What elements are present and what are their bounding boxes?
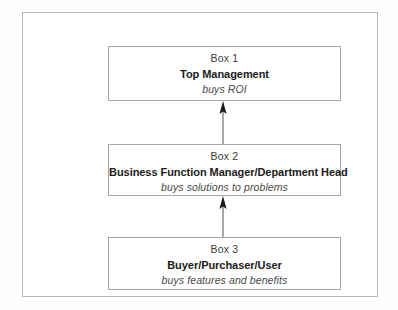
diagram-outer-frame: Box 1 Top Management buys ROI Box 2 Busi… (22, 12, 378, 297)
box-1-subtitle: buys ROI (109, 82, 340, 97)
box-2-title: Business Function Manager/Department Hea… (109, 164, 340, 180)
box-2-label: Box 2 (109, 149, 340, 164)
box-2-subtitle: buys solutions to problems (109, 180, 340, 195)
box-3-subtitle: buys features and benefits (109, 273, 340, 288)
box-3-label: Box 3 (109, 242, 340, 257)
diagram-box-2: Box 2 Business Function Manager/Departme… (108, 144, 341, 196)
up-arrow-icon (213, 101, 233, 144)
diagram-canvas: Box 1 Top Management buys ROI Box 2 Busi… (0, 0, 398, 310)
diagram-box-3: Box 3 Buyer/Purchaser/User buys features… (108, 237, 341, 290)
connector-box2-to-box1 (213, 101, 233, 144)
connector-box3-to-box2 (213, 196, 233, 237)
box-1-label: Box 1 (109, 51, 340, 66)
diagram-box-1: Box 1 Top Management buys ROI (108, 46, 341, 101)
box-1-title: Top Management (109, 66, 340, 82)
box-3-title: Buyer/Purchaser/User (109, 257, 340, 273)
up-arrow-icon (213, 196, 233, 237)
